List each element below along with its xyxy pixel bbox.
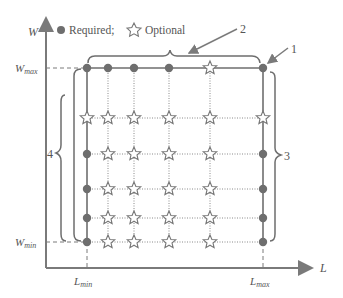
required-dot-icon [83, 64, 91, 72]
optional-star-icon [203, 111, 216, 124]
optional-star-icon [80, 111, 93, 124]
optional-star-icon [203, 235, 216, 248]
y-axis-label: W [28, 25, 39, 39]
brace-right [270, 72, 281, 241]
optional-star-icon [203, 211, 216, 224]
optional-star-icon [162, 235, 175, 248]
required-dot-icon [83, 214, 91, 222]
optional-star-icon [162, 211, 175, 224]
w-min-label: Wmin [15, 236, 36, 250]
legend-required-label: Required; [69, 24, 114, 37]
optional-star-icon [162, 111, 175, 124]
optional-star-icon [127, 23, 141, 36]
optional-star-icon [101, 182, 114, 195]
required-dot-icon [259, 214, 267, 222]
required-dot-icon [83, 185, 91, 193]
design-space-diagram: W L Wmax Wmin Lmin Lmax Required; Option… [0, 0, 343, 298]
required-dot-icon [259, 185, 267, 193]
callouts: 1 2 3 4 [47, 22, 297, 163]
callout-2-label: 2 [240, 22, 246, 36]
required-dot-icon [259, 238, 267, 246]
callout-arrow-1 [268, 48, 288, 63]
x-axis-label: L [319, 261, 327, 275]
optional-star-icon [101, 111, 114, 124]
l-max-label: Lmax [249, 275, 270, 289]
l-min-label: Lmin [73, 275, 92, 289]
required-dot-icon [83, 150, 91, 158]
callout-arrow-2 [189, 29, 237, 53]
optional-star-icon [127, 235, 140, 248]
callout-3-label: 3 [284, 149, 290, 163]
brace-top [88, 50, 260, 63]
optional-star-icon [203, 61, 216, 74]
dashed-guides [46, 68, 263, 268]
required-dot-icon [259, 64, 267, 72]
required-dot-icon [165, 64, 173, 72]
optional-star-icon [127, 211, 140, 224]
required-dot-icon [83, 238, 91, 246]
optional-star-icon [101, 147, 114, 160]
required-dot-icon [259, 150, 267, 158]
required-dot-icon [130, 64, 138, 72]
optional-star-icon [127, 182, 140, 195]
required-dot-icon [57, 26, 65, 34]
required-dot-icon [104, 64, 112, 72]
optional-star-icon [203, 182, 216, 195]
callout-4-label: 4 [47, 147, 53, 161]
optional-star-icon [101, 235, 114, 248]
callout-1-label: 1 [291, 42, 297, 56]
bracket-left-outer [74, 69, 81, 241]
brace-left [56, 95, 66, 241]
optional-star-icon [162, 182, 175, 195]
legend: Required; Optional [57, 23, 185, 37]
optional-star-icon [127, 111, 140, 124]
legend-optional-label: Optional [145, 24, 185, 37]
optional-star-icon [127, 147, 140, 160]
w-max-label: Wmax [15, 62, 38, 76]
optional-star-icon [256, 111, 269, 124]
optional-star-icon [162, 147, 175, 160]
optional-star-icon [101, 211, 114, 224]
optional-star-icon [203, 147, 216, 160]
